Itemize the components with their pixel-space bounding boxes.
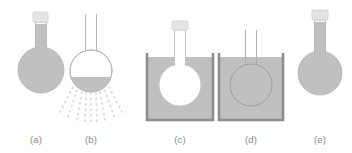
panel-a: (a) — [18, 12, 64, 145]
panel-d: (d) — [219, 30, 283, 145]
panel-e: (e) — [298, 10, 342, 145]
ray-1 — [60, 87, 73, 112]
radiating-rays — [60, 87, 122, 123]
ray-3 — [77, 92, 82, 120]
flask-body — [18, 47, 64, 93]
ray-2 — [68, 90, 77, 117]
panel-c: (c) — [147, 21, 213, 145]
flask-neck-liquid — [315, 22, 325, 55]
flask-neck-liquid — [36, 24, 46, 52]
panel-b-flask — [68, 14, 114, 97]
ray-9 — [109, 87, 122, 112]
flask-body — [159, 64, 201, 106]
panel-label-a: (a) — [30, 134, 42, 145]
experiment-diagram-figure: (a) — [0, 0, 352, 153]
panel-b: (b) — [60, 14, 122, 145]
flask-stopper — [172, 21, 188, 30]
flask-stopper — [312, 10, 328, 20]
panel-e-flask — [298, 10, 342, 95]
ray-7 — [100, 92, 105, 120]
ray-8 — [105, 90, 114, 117]
panel-a-flask — [18, 12, 64, 93]
flask-body — [298, 51, 342, 95]
diagram-canvas: (a) — [0, 0, 352, 153]
panel-label-c: (c) — [174, 134, 186, 145]
ray-4 — [85, 93, 86, 122]
panel-label-d: (d) — [245, 134, 257, 145]
ray-6 — [96, 93, 97, 122]
flask-stopper — [33, 12, 48, 22]
panel-label-b: (b) — [85, 134, 97, 145]
flask-neck-body-junction — [175, 58, 185, 70]
panel-label-e: (e) — [314, 134, 326, 145]
flask-body — [230, 64, 272, 106]
